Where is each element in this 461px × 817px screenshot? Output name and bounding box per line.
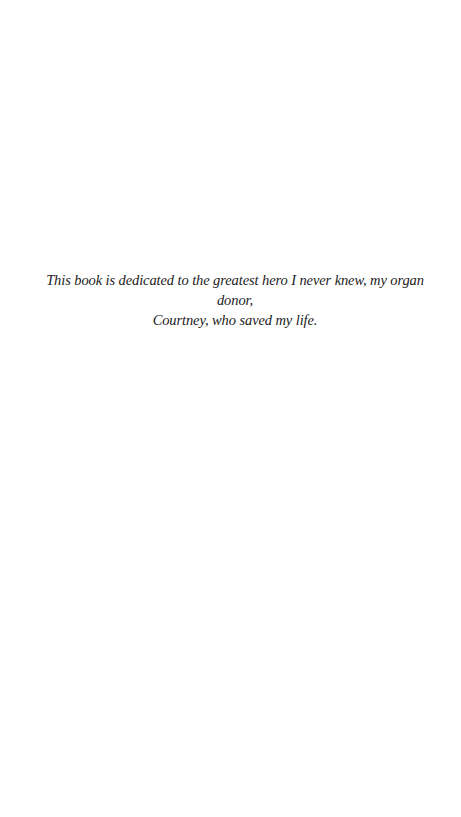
book-page: This book is dedicated to the greatest h… <box>0 0 461 817</box>
dedication-line-2: Courtney, who saved my life. <box>30 310 440 330</box>
dedication-text: This book is dedicated to the greatest h… <box>30 270 440 330</box>
dedication-line-1: This book is dedicated to the greatest h… <box>30 270 440 310</box>
